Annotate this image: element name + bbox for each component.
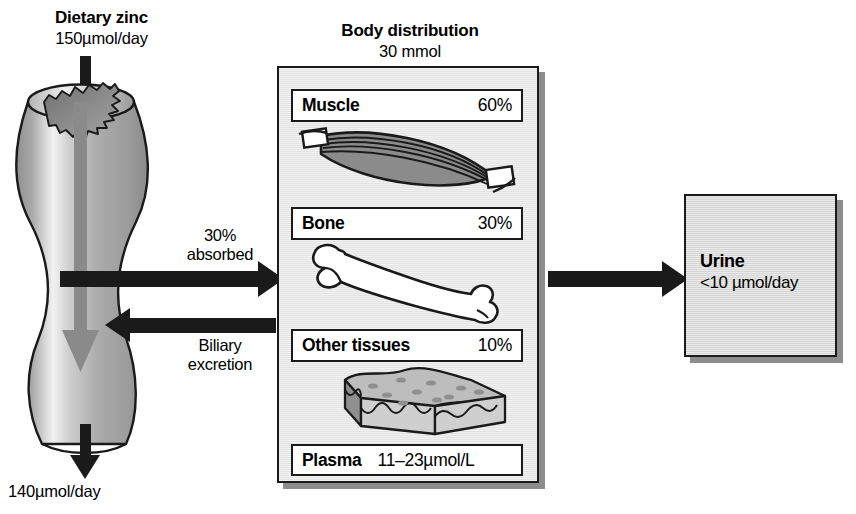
compartment-row-bone[interactable]: Bone 30% xyxy=(291,207,523,240)
absorbed-flow-label: 30% absorbed xyxy=(160,226,280,264)
compartment-name-plasma: Plasma xyxy=(302,450,362,471)
compartment-row-plasma[interactable]: Plasma 11–23µmol/L xyxy=(291,444,523,476)
fecal-output-amount: 140µmol/day xyxy=(8,481,198,501)
urine-label: Urine xyxy=(700,251,832,272)
urine-value: <10 µmol/day xyxy=(700,273,836,293)
biliary-arrow-head-icon xyxy=(105,308,130,342)
dietary-zinc-title: Dietary zinc xyxy=(14,8,189,28)
absorbed-flow-line1: 30% xyxy=(204,226,236,244)
absorbed-flow-line2: absorbed xyxy=(187,245,253,263)
dietary-zinc-amount: 150µmol/day xyxy=(14,28,189,48)
compartment-value-other-tissues: 10% xyxy=(478,335,512,356)
absorbed-arrow-shaft-icon xyxy=(60,271,272,287)
compartment-row-muscle[interactable]: Muscle 60% xyxy=(291,89,523,122)
biliary-arrow-shaft-icon xyxy=(126,318,276,333)
compartment-name-other-tissues: Other tissues xyxy=(302,335,410,356)
biliary-flow-label: Biliary excretion xyxy=(158,336,282,374)
body-distribution-panel: Muscle 60% Bone 30% Other xyxy=(277,66,539,483)
bone-icon xyxy=(295,240,521,326)
body-distribution-amount: 30 mmol xyxy=(300,41,520,61)
tissue-slab-icon xyxy=(301,364,513,440)
muscle-icon xyxy=(297,124,519,200)
compartment-value-muscle: 60% xyxy=(478,95,512,116)
body-distribution-title: Body distribution xyxy=(300,21,520,41)
compartment-value-plasma: 11–23µmol/L xyxy=(378,450,475,471)
fecal-arrow-head-icon xyxy=(70,455,100,479)
compartment-name-bone: Bone xyxy=(302,213,345,234)
compartment-value-bone: 30% xyxy=(478,213,512,234)
intestine-illustration xyxy=(8,72,154,458)
compartment-name-muscle: Muscle xyxy=(302,95,360,116)
biliary-flow-line2: excretion xyxy=(188,355,252,373)
biliary-flow-line1: Biliary xyxy=(199,336,242,354)
urine-arrow-shaft-icon xyxy=(548,271,676,287)
compartment-row-other-tissues[interactable]: Other tissues 10% xyxy=(291,329,523,362)
